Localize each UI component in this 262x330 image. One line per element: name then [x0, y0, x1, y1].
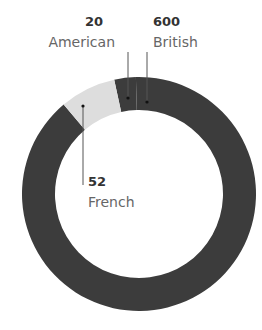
french-label: French: [88, 194, 135, 210]
british-value: 600: [153, 14, 180, 29]
french-value: 52: [88, 174, 106, 189]
american-label: American: [48, 34, 115, 50]
donut-chart: 20 American 600 British 52 French: [0, 0, 262, 330]
british-leader-dot: [145, 100, 148, 103]
french-leader-dot: [81, 104, 84, 107]
british-label: British: [153, 34, 198, 50]
american-leader-dot: [126, 96, 129, 99]
american-value: 20: [85, 14, 103, 29]
slice-british: [22, 77, 256, 311]
